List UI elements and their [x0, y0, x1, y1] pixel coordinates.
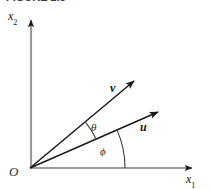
x2-axis-label: x2: [8, 10, 17, 25]
x2-axis-label-subscript: 2: [13, 18, 17, 27]
angle-theta-label: θ: [91, 122, 96, 133]
vector-angle-diagram: FIGURE 2.5 x2 x1 O v u θ ϕ: [0, 0, 212, 190]
angle-phi-arc: [117, 129, 125, 168]
vector-v-line: [30, 81, 134, 168]
angle-phi-label: ϕ: [100, 146, 106, 157]
vector-v-label: v: [110, 82, 115, 94]
diagram-canvas: [0, 0, 212, 190]
vector-u-label: u: [140, 121, 147, 133]
x1-axis-label: x1: [186, 173, 195, 188]
origin-label: O: [9, 165, 18, 178]
x1-axis-label-subscript: 1: [191, 181, 195, 190]
